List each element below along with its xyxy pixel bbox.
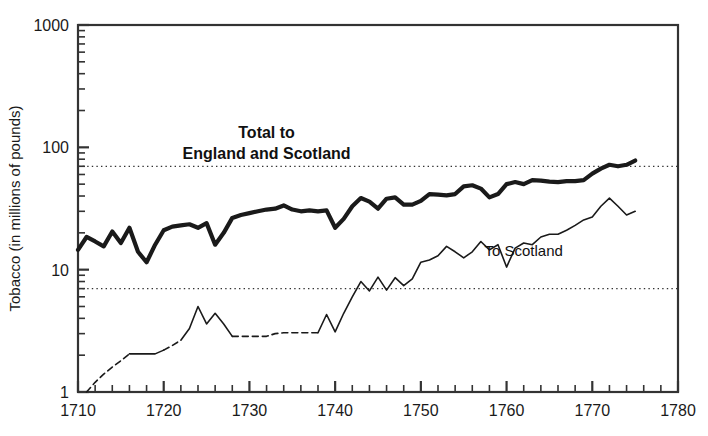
series-line-scotland xyxy=(181,306,232,340)
y-tick-label: 1000 xyxy=(33,17,69,34)
x-axis-tick-labels: 17101720173017401750176017701780 xyxy=(60,402,696,419)
y-axis-tick-labels: 1101001000 xyxy=(33,17,69,401)
chart-figure: 1101001000 17101720173017401750176017701… xyxy=(0,0,708,436)
chart-canvas: 1101001000 17101720173017401750176017701… xyxy=(0,0,708,436)
series-line-scotland xyxy=(87,354,130,392)
x-tick-label: 1770 xyxy=(574,402,610,419)
x-axis-major-ticks xyxy=(78,381,678,392)
series-line-scotland xyxy=(232,333,318,337)
scotland-series-label: To Scotland xyxy=(485,242,563,259)
series-line-scotland xyxy=(164,340,181,350)
total-series-label-line1: Total to xyxy=(238,124,295,141)
y-tick-label: 1 xyxy=(60,384,69,401)
series-line-scotland xyxy=(129,350,163,354)
x-tick-label: 1720 xyxy=(146,402,182,419)
total-series-label-line2: England and Scotland xyxy=(183,145,351,162)
x-tick-label: 1780 xyxy=(660,402,696,419)
series-annotations: Total toEngland and ScotlandTo Scotland xyxy=(183,124,563,259)
x-tick-label: 1730 xyxy=(232,402,268,419)
x-tick-label: 1760 xyxy=(489,402,525,419)
y-axis-major-ticks xyxy=(78,25,89,392)
y-tick-label: 100 xyxy=(42,139,69,156)
y-tick-label: 10 xyxy=(51,262,69,279)
series-line-scotland xyxy=(318,198,635,333)
x-tick-label: 1710 xyxy=(60,402,96,419)
x-tick-label: 1750 xyxy=(403,402,439,419)
x-tick-label: 1740 xyxy=(317,402,353,419)
y-axis-title: Tobacco (in millions of pounds) xyxy=(6,106,23,312)
y-axis-title-text: Tobacco (in millions of pounds) xyxy=(6,106,23,312)
data-series-layer xyxy=(78,161,635,392)
